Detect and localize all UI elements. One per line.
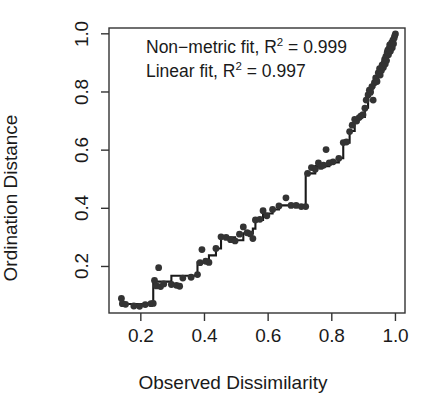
x-tick-label: 0.8 bbox=[319, 325, 345, 347]
y-axis-title: Ordination Distance bbox=[0, 114, 22, 281]
data-point bbox=[194, 271, 201, 278]
data-point bbox=[232, 237, 239, 244]
y-tick-label: 0.2 bbox=[71, 254, 93, 280]
data-point bbox=[249, 235, 256, 242]
data-point bbox=[302, 203, 309, 210]
data-point bbox=[304, 170, 311, 177]
data-point bbox=[383, 57, 390, 64]
data-point bbox=[374, 78, 381, 85]
data-point bbox=[213, 245, 220, 252]
y-tick-label: 0.4 bbox=[71, 195, 93, 221]
data-point bbox=[122, 301, 129, 308]
data-point bbox=[346, 128, 353, 135]
x-tick-label: 0.4 bbox=[192, 325, 218, 347]
x-tick-label: 1.0 bbox=[383, 325, 409, 347]
data-point bbox=[206, 259, 213, 266]
data-point bbox=[283, 194, 290, 201]
data-point bbox=[392, 30, 399, 37]
data-point bbox=[256, 216, 263, 223]
y-tick-label: 0.6 bbox=[71, 137, 93, 163]
x-tick-label: 0.6 bbox=[255, 325, 281, 347]
x-axis-tick-marks bbox=[141, 313, 396, 321]
x-axis-title: Observed Dissimilarity bbox=[139, 372, 328, 394]
data-point bbox=[330, 158, 337, 165]
data-point bbox=[390, 40, 397, 47]
data-point bbox=[199, 246, 206, 253]
nonmetric-fit-prefix: Non−metric fit, R bbox=[146, 37, 277, 57]
linear-fit-prefix: Linear fit, R bbox=[146, 61, 235, 81]
data-point bbox=[263, 212, 270, 219]
y-tick-label: 0.8 bbox=[71, 79, 93, 105]
data-point bbox=[370, 97, 377, 104]
data-point bbox=[176, 283, 183, 290]
data-point bbox=[360, 111, 367, 118]
shepard-stress-plot: 0.20.40.60.81.0 0.20.40.60.81.0 Observed… bbox=[0, 0, 430, 411]
linear-fit-label: Linear fit, R2 = 0.997 bbox=[146, 60, 347, 84]
data-point bbox=[335, 155, 342, 162]
data-point bbox=[240, 224, 247, 231]
data-point bbox=[142, 301, 149, 308]
data-point bbox=[323, 146, 330, 153]
data-point bbox=[160, 281, 167, 288]
data-point bbox=[155, 264, 162, 271]
data-point bbox=[179, 275, 186, 282]
linear-fit-value: = 0.997 bbox=[242, 61, 306, 81]
data-point bbox=[236, 231, 243, 238]
fit-statistics-annotation: Non−metric fit, R2 = 0.999 Linear fit, R… bbox=[146, 36, 347, 83]
data-point bbox=[136, 303, 143, 310]
data-point bbox=[150, 300, 157, 307]
data-point bbox=[197, 259, 204, 266]
nonmetric-fit-value: = 0.999 bbox=[283, 37, 347, 57]
data-point bbox=[362, 105, 369, 112]
y-axis-tick-marks bbox=[101, 34, 109, 267]
data-point bbox=[276, 203, 283, 210]
data-point bbox=[188, 274, 195, 281]
data-point bbox=[269, 206, 276, 213]
nonmetric-fit-label: Non−metric fit, R2 = 0.999 bbox=[146, 36, 347, 60]
y-tick-label: 1.0 bbox=[71, 21, 93, 47]
x-tick-label: 0.2 bbox=[128, 325, 154, 347]
data-point bbox=[343, 139, 350, 146]
